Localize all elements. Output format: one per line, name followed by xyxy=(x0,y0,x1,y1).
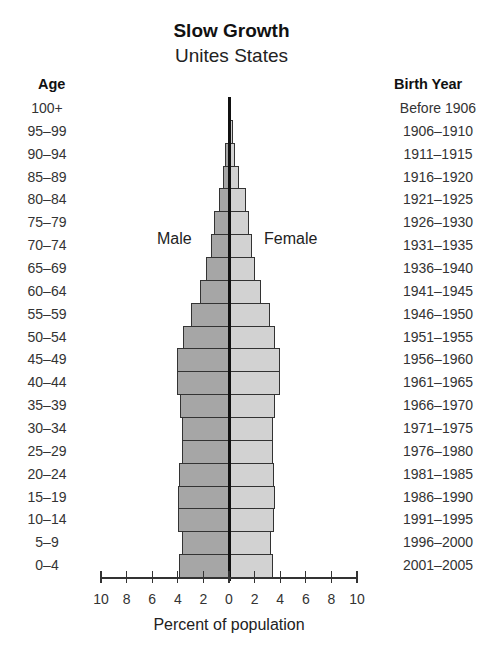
birth-year-label: 1966–1970 xyxy=(385,394,491,416)
birth-year-label: 1936–1940 xyxy=(385,257,491,279)
age-group-label: 75–79 xyxy=(22,211,72,233)
x-tick xyxy=(254,571,255,583)
x-tick-label: 4 xyxy=(166,591,190,607)
male-bar xyxy=(178,508,229,532)
x-tick xyxy=(228,571,229,583)
birth-year-label: 1906–1910 xyxy=(385,120,491,142)
birth-year-label: 1961–1965 xyxy=(385,371,491,393)
male-bar xyxy=(177,348,229,372)
x-tick xyxy=(152,571,153,583)
x-tick-label: 8 xyxy=(115,591,139,607)
male-bar xyxy=(214,211,229,235)
male-label: Male xyxy=(157,230,192,248)
birth-year-label: Before 1906 xyxy=(385,97,491,119)
x-tick-label: 0 xyxy=(217,591,241,607)
female-bar xyxy=(229,188,246,212)
birth-year-label: 1931–1935 xyxy=(385,234,491,256)
birth-year-header: Birth Year xyxy=(394,76,462,92)
female-bar xyxy=(229,348,280,372)
x-tick-label: 10 xyxy=(89,591,113,607)
female-bar xyxy=(229,508,274,532)
age-group-label: 80–84 xyxy=(22,188,72,210)
age-group-label: 45–49 xyxy=(22,348,72,370)
x-tick xyxy=(356,571,357,583)
female-bar xyxy=(229,211,249,235)
male-bar xyxy=(182,440,229,464)
age-group-label: 30–34 xyxy=(22,417,72,439)
female-bar xyxy=(229,166,239,190)
male-bar xyxy=(182,417,229,441)
x-tick-label: 6 xyxy=(294,591,318,607)
female-bar xyxy=(229,303,270,327)
x-tick xyxy=(331,571,332,583)
chart-title: Slow Growth xyxy=(0,20,463,42)
birth-year-label: 1986–1990 xyxy=(385,486,491,508)
age-group-label: 40–44 xyxy=(22,371,72,393)
birth-year-label: 1996–2000 xyxy=(385,531,491,553)
x-tick xyxy=(126,571,127,583)
birth-year-label: 1971–1975 xyxy=(385,417,491,439)
x-tick xyxy=(203,571,204,583)
male-bar xyxy=(178,486,229,510)
age-group-label: 35–39 xyxy=(22,394,72,416)
birth-year-label: 1951–1955 xyxy=(385,326,491,348)
female-bar xyxy=(229,394,275,418)
male-bar xyxy=(211,234,229,258)
center-axis-line xyxy=(228,97,231,581)
female-bar xyxy=(229,417,273,441)
age-group-label: 50–54 xyxy=(22,326,72,348)
female-bar xyxy=(229,234,252,258)
age-group-label: 95–99 xyxy=(22,120,72,142)
age-group-label: 70–74 xyxy=(22,234,72,256)
female-label: Female xyxy=(264,230,317,248)
female-bar xyxy=(229,440,273,464)
x-tick-label: 2 xyxy=(243,591,267,607)
age-group-label: 0–4 xyxy=(22,554,72,576)
x-axis-label: Percent of population xyxy=(100,616,358,634)
birth-year-label: 1941–1945 xyxy=(385,280,491,302)
female-bar xyxy=(229,280,261,304)
birth-year-label: 1991–1995 xyxy=(385,508,491,530)
x-tick xyxy=(280,571,281,583)
male-bar xyxy=(200,280,229,304)
age-group-label: 85–89 xyxy=(22,166,72,188)
female-bar xyxy=(229,531,271,555)
age-group-label: 10–14 xyxy=(22,508,72,530)
chart-subtitle: Unites States xyxy=(0,45,463,67)
female-bar xyxy=(229,371,280,395)
x-tick xyxy=(305,571,306,583)
female-bar xyxy=(229,554,273,578)
male-bar xyxy=(183,326,229,350)
age-group-label: 15–19 xyxy=(22,486,72,508)
male-bar xyxy=(177,371,229,395)
age-group-label: 25–29 xyxy=(22,440,72,462)
age-header: Age xyxy=(38,76,65,92)
male-bar xyxy=(191,303,229,327)
female-bar xyxy=(229,257,255,281)
age-group-label: 100+ xyxy=(22,97,72,119)
x-tick-label: 6 xyxy=(140,591,164,607)
age-group-label: 5–9 xyxy=(22,531,72,553)
birth-year-label: 1976–1980 xyxy=(385,440,491,462)
male-bar xyxy=(182,531,229,555)
birth-year-label: 2001–2005 xyxy=(385,554,491,576)
birth-year-label: 1916–1920 xyxy=(385,166,491,188)
age-group-label: 60–64 xyxy=(22,280,72,302)
age-group-label: 90–94 xyxy=(22,143,72,165)
x-tick-label: 2 xyxy=(191,591,215,607)
birth-year-label: 1926–1930 xyxy=(385,211,491,233)
x-tick xyxy=(177,571,178,583)
x-tick-label: 8 xyxy=(319,591,343,607)
birth-year-label: 1911–1915 xyxy=(385,143,491,165)
birth-year-label: 1921–1925 xyxy=(385,188,491,210)
male-bar xyxy=(180,394,229,418)
birth-year-label: 1981–1985 xyxy=(385,463,491,485)
female-bar xyxy=(229,463,274,487)
x-tick-label: 4 xyxy=(268,591,292,607)
female-bar xyxy=(229,486,275,510)
male-bar xyxy=(179,463,229,487)
age-group-label: 65–69 xyxy=(22,257,72,279)
female-bar xyxy=(229,326,275,350)
male-bar xyxy=(206,257,229,281)
x-tick xyxy=(100,571,101,583)
